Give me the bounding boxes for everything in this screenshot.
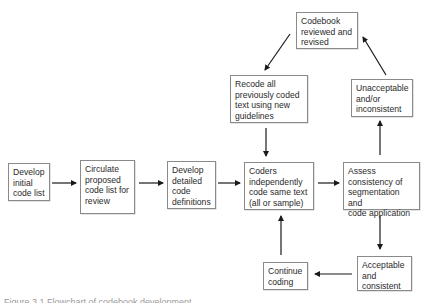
figure-caption: Figure 3.1 Flowchart of codebook develop… [4, 296, 192, 303]
arrow-codebook-to-recode [265, 34, 290, 70]
node-develop-detailed-definitions: Develop detailed code definitions [167, 161, 216, 209]
node-codebook-reviewed-revised: Codebook reviewed and revised [296, 12, 358, 49]
arrow-unacceptable-to-codebook [363, 37, 386, 75]
node-coders-independently-code: Coders independently code same text (all… [244, 162, 314, 210]
node-assess-consistency: Assess consistency of segmentation and c… [343, 162, 420, 210]
node-acceptable-consistent: Acceptable and consistent [357, 256, 412, 291]
node-circulate-proposed-code-list: Circulate proposed code list for review [80, 160, 135, 214]
node-continue-coding: Continue coding [263, 262, 308, 290]
node-unacceptable-inconsistent: Unacceptable and/or inconsistent [351, 79, 413, 117]
node-develop-initial-code-list: Develop initial code list [8, 163, 50, 201]
node-recode-previously-coded: Recode all previously coded text using n… [230, 75, 308, 123]
